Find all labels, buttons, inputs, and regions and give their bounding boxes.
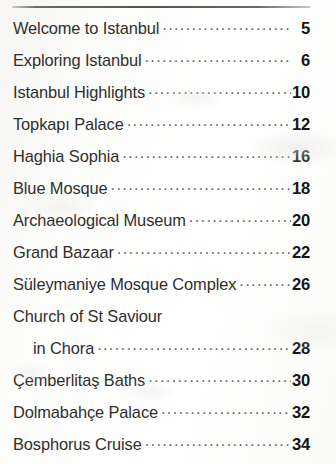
toc-entry-title: Welcome to Istanbul — [13, 19, 161, 38]
toc-entry[interactable]: Dolmabahçe Palace32 — [0, 402, 336, 434]
toc-entry[interactable]: Grand Bazaar22 — [0, 242, 336, 274]
toc-entry[interactable]: Bosphorus Cruise34 — [0, 434, 336, 464]
toc-entry-title: in Chora — [33, 339, 96, 358]
toc-entry[interactable]: Welcome to Istanbul5 — [0, 18, 336, 50]
toc-entry-page-number: 30 — [292, 371, 310, 391]
toc-leader-dots — [148, 370, 291, 386]
toc-entry[interactable]: Church of St Saviour — [0, 306, 336, 338]
toc-entry-title: Dolmabahçe Palace — [13, 403, 160, 422]
toc-entry-title: Blue Mosque — [13, 179, 110, 198]
toc-entry[interactable]: Istanbul Highlights10 — [0, 82, 336, 114]
toc-entry-page-number: 28 — [292, 339, 310, 359]
header-divider-rule — [12, 6, 310, 8]
toc-leader-dots — [189, 210, 291, 226]
toc-entry-page-number: 18 — [292, 179, 310, 199]
table-of-contents-list: Welcome to Istanbul5Exploring Istanbul6I… — [0, 18, 336, 464]
toc-entry-page-number: 26 — [292, 275, 310, 295]
toc-entry-page-number: 12 — [292, 115, 310, 135]
toc-leader-dots — [148, 82, 291, 98]
toc-entry-title: Bosphorus Cruise — [13, 435, 144, 454]
toc-entry[interactable]: Haghia Sophia16 — [0, 146, 336, 178]
toc-entry-title: Süleymaniye Mosque Complex — [13, 275, 238, 294]
toc-leader-dots — [165, 306, 292, 322]
toc-entry-page-number: 34 — [292, 435, 310, 455]
toc-entry-title: Archaeological Museum — [13, 211, 188, 230]
toc-entry-page-number: 32 — [292, 403, 310, 423]
toc-entry[interactable]: Topkapı Palace12 — [0, 114, 336, 146]
toc-entry[interactable]: in Chora28 — [0, 338, 336, 370]
toc-leader-dots — [122, 146, 291, 162]
toc-entry-title: Çemberlitaş Baths — [13, 371, 147, 390]
toc-leader-dots — [145, 50, 293, 66]
toc-leader-dots — [111, 178, 291, 194]
toc-entry-page-number: 20 — [292, 211, 310, 231]
toc-entry[interactable]: Archaeological Museum20 — [0, 210, 336, 242]
toc-entry-page-number: 16 — [292, 147, 310, 167]
toc-leader-dots — [239, 274, 291, 290]
toc-leader-dots — [127, 114, 291, 130]
toc-entry-page-number: 10 — [292, 83, 310, 103]
toc-entry[interactable]: Blue Mosque18 — [0, 178, 336, 210]
toc-entry[interactable]: Çemberlitaş Baths30 — [0, 370, 336, 402]
toc-entry-page-number: 5 — [293, 19, 310, 39]
toc-leader-dots — [117, 242, 291, 258]
toc-entry-title: Church of St Saviour — [13, 307, 164, 326]
toc-entry-title: Exploring Istanbul — [13, 51, 144, 70]
toc-page: Welcome to Istanbul5Exploring Istanbul6I… — [0, 0, 336, 464]
toc-leader-dots — [97, 338, 291, 354]
toc-entry-title: Topkapı Palace — [13, 115, 126, 134]
toc-leader-dots — [145, 434, 291, 450]
toc-entry-title: Istanbul Highlights — [13, 83, 147, 102]
toc-entry-title: Grand Bazaar — [13, 243, 116, 262]
toc-leader-dots — [162, 18, 292, 34]
toc-entry-title: Haghia Sophia — [13, 147, 121, 166]
toc-entry[interactable]: Exploring Istanbul6 — [0, 50, 336, 82]
toc-entry-page-number: 6 — [293, 51, 310, 71]
toc-entry[interactable]: Süleymaniye Mosque Complex26 — [0, 274, 336, 306]
toc-leader-dots — [161, 402, 291, 418]
toc-entry-page-number: 22 — [292, 243, 310, 263]
